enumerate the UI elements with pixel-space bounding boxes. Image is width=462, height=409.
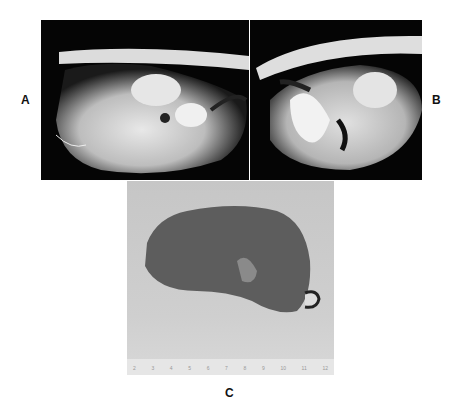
ruler-tick: 9	[262, 365, 265, 371]
ruler-tick: 5	[188, 365, 191, 371]
radiograph-panel-a	[41, 20, 249, 180]
ruler-tick: 10	[280, 365, 286, 371]
ruler-scale: 2 3 4 5 6 7 8 9 10 11 12	[127, 359, 334, 375]
ruler-tick: 8	[244, 365, 247, 371]
radiograph-panel-b	[250, 20, 422, 180]
panel-label-c: C	[225, 386, 234, 400]
specimen-photo-panel-c: 2 3 4 5 6 7 8 9 10 11 12	[127, 181, 334, 375]
ruler-tick: 3	[151, 365, 154, 371]
panel-label-a: A	[21, 93, 30, 107]
ruler-tick: 12	[322, 365, 328, 371]
ruler-tick: 6	[207, 365, 210, 371]
ruler-tick: 2	[133, 365, 136, 371]
ruler-tick: 7	[225, 365, 228, 371]
ruler-tick: 11	[302, 365, 307, 371]
ruler-tick: 4	[170, 365, 173, 371]
panel-label-b: B	[432, 93, 441, 107]
